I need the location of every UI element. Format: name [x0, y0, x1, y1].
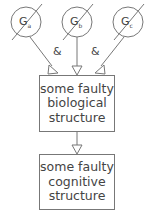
gene-a-label: Ga: [19, 15, 31, 29]
box-line: structure: [40, 189, 114, 204]
arrowhead-c: [95, 65, 105, 74]
biological-structure-box: some faulty biological structure: [39, 75, 115, 132]
cognitive-structure-box: some faulty cognitive structure: [39, 154, 115, 210]
box-line: some faulty: [40, 160, 114, 175]
and-connector-1: &: [53, 45, 62, 58]
arrowhead-box: [72, 145, 82, 154]
gene-c-label: Gc: [121, 15, 133, 29]
box-line: structure: [40, 111, 114, 126]
and-connector-2: &: [91, 45, 100, 58]
box-line: biological: [40, 96, 114, 111]
box-line: cognitive: [40, 175, 114, 190]
box-line: some faulty: [40, 82, 114, 97]
arrowhead-a: [48, 65, 58, 74]
gene-b-label: Gb: [70, 15, 82, 29]
arrowhead-b: [72, 66, 82, 75]
